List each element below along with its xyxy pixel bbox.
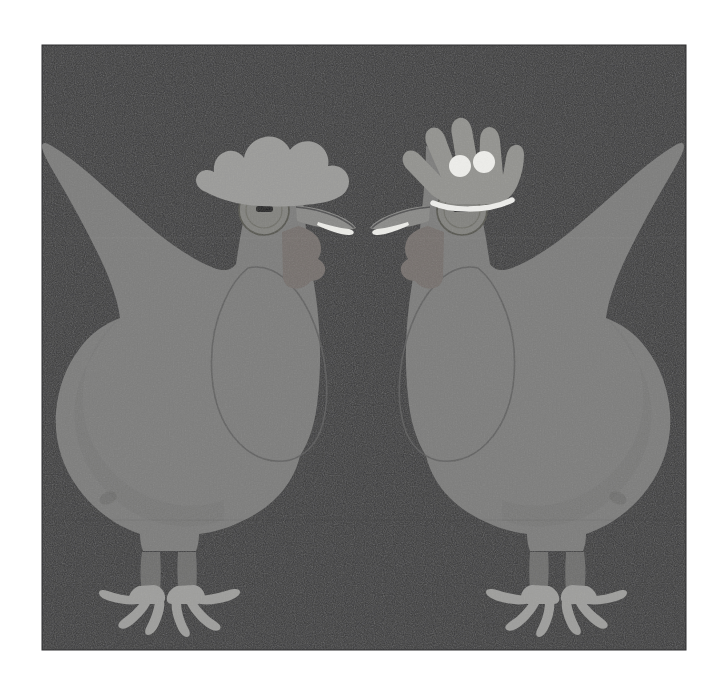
artwork-illustration — [0, 0, 724, 691]
artwork-canvas: Two Chickens Facing Each Other Two styli… — [0, 0, 724, 691]
